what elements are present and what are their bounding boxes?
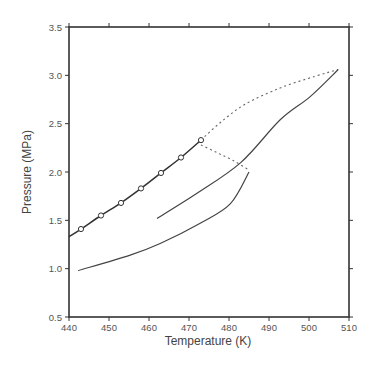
x-tick-label: 500 xyxy=(301,322,317,333)
data-point-marker xyxy=(118,200,123,205)
x-tick-label: 480 xyxy=(221,322,237,333)
data-point-marker xyxy=(178,155,183,160)
tick-labels: 4404504604704804905005100.51.01.52.02.53… xyxy=(49,22,357,334)
chart: 4404504604704804905005100.51.01.52.02.53… xyxy=(0,0,376,366)
y-tick-label: 1.5 xyxy=(49,215,62,226)
y-tick-label: 3.0 xyxy=(49,70,62,81)
x-tick-label: 470 xyxy=(181,322,197,333)
x-axis-title: Temperature (K) xyxy=(165,334,252,348)
x-tick-label: 510 xyxy=(341,322,357,333)
data-point-marker xyxy=(78,226,83,231)
data-point-marker xyxy=(98,213,103,218)
axis-ticks xyxy=(65,23,353,321)
data-series xyxy=(69,70,338,271)
solid-curve-lower xyxy=(78,172,249,271)
y-tick-label: 3.5 xyxy=(49,22,62,33)
data-point-marker xyxy=(158,170,163,175)
data-point-marker xyxy=(198,138,203,143)
upper-dashed-curve xyxy=(201,70,338,141)
x-tick-label: 450 xyxy=(101,322,117,333)
x-tick-label: 440 xyxy=(61,322,77,333)
plot-frame xyxy=(69,27,349,317)
data-point-marker xyxy=(138,186,143,191)
solid-curve-upper xyxy=(157,70,338,219)
x-tick-label: 490 xyxy=(261,322,277,333)
x-tick-label: 460 xyxy=(141,322,157,333)
y-tick-label: 2.0 xyxy=(49,167,62,178)
y-axis-title: Pressure (MPa) xyxy=(20,130,34,214)
plot-border xyxy=(69,27,349,317)
y-tick-label: 0.5 xyxy=(49,312,62,323)
y-tick-label: 1.0 xyxy=(49,263,62,274)
y-tick-label: 2.5 xyxy=(49,118,62,129)
lower-dashed-curve xyxy=(201,145,249,170)
